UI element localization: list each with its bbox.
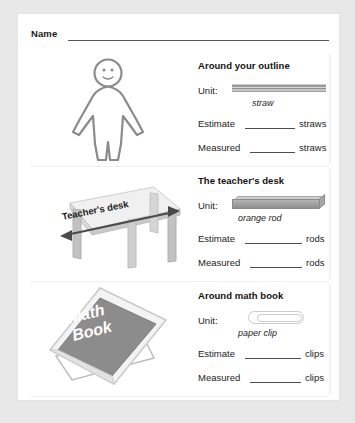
section-title: Around your outline bbox=[198, 60, 290, 71]
measured-blank[interactable] bbox=[250, 267, 302, 268]
name-field-row: Name bbox=[31, 28, 329, 46]
section-panel-book: Around math book Unit: paper clip Estima… bbox=[190, 284, 331, 394]
name-write-line[interactable] bbox=[68, 40, 329, 41]
estimate-row: Estimate clips bbox=[198, 348, 328, 362]
unit-label: Unit: bbox=[198, 315, 218, 326]
orange-rod-icon bbox=[232, 195, 326, 211]
measurement-section-book: Math Book Around math book Unit: paper c… bbox=[18, 282, 341, 396]
measured-row: Measured rods bbox=[198, 257, 328, 271]
body-outline-figure bbox=[26, 52, 189, 166]
estimate-row: Estimate rods bbox=[198, 233, 328, 247]
measured-row: Measured clips bbox=[198, 372, 328, 386]
estimate-unit-word: clips bbox=[305, 348, 324, 359]
unit-caption: paper clip bbox=[238, 328, 277, 338]
book-icon bbox=[42, 284, 172, 392]
body-outline-icon bbox=[60, 56, 156, 162]
estimate-unit-word: rods bbox=[306, 233, 324, 244]
section-panel-desk: The teacher's desk Unit: orange rod Esti… bbox=[190, 169, 331, 279]
measured-row: Measured straws bbox=[198, 142, 328, 156]
measurement-section-outline: Around your outline Unit: straw Estimate… bbox=[18, 52, 341, 166]
estimate-blank[interactable] bbox=[245, 358, 301, 359]
name-label: Name bbox=[31, 28, 57, 39]
unit-caption: orange rod bbox=[238, 213, 282, 223]
estimate-label: Estimate bbox=[198, 118, 235, 129]
teachers-desk-illustration: Teacher's desk bbox=[26, 167, 189, 281]
desk-icon bbox=[32, 173, 182, 273]
straw-icon bbox=[232, 80, 326, 96]
estimate-blank[interactable] bbox=[245, 243, 302, 244]
unit-label: Unit: bbox=[198, 200, 218, 211]
measured-label: Measured bbox=[198, 372, 240, 383]
worksheet-page: Name Around your outline Unit: bbox=[17, 13, 340, 401]
unit-caption: straw bbox=[252, 98, 274, 108]
section-divider bbox=[30, 396, 329, 397]
estimate-label: Estimate bbox=[198, 233, 235, 244]
measured-blank[interactable] bbox=[250, 152, 295, 153]
math-book-illustration: Math Book bbox=[26, 282, 189, 396]
measured-blank[interactable] bbox=[250, 382, 301, 383]
measured-unit-word: rods bbox=[306, 257, 324, 268]
paper-clip-icon bbox=[232, 310, 326, 326]
section-title: The teacher's desk bbox=[198, 175, 284, 186]
measured-label: Measured bbox=[198, 257, 240, 268]
measured-unit-word: straws bbox=[299, 142, 326, 153]
estimate-row: Estimate straws bbox=[198, 118, 328, 132]
estimate-unit-word: straws bbox=[299, 118, 326, 129]
section-title: Around math book bbox=[198, 290, 283, 301]
estimate-blank[interactable] bbox=[245, 128, 295, 129]
estimate-label: Estimate bbox=[198, 348, 235, 359]
section-panel-outline: Around your outline Unit: straw Estimate… bbox=[190, 54, 331, 164]
measurement-section-desk: Teacher's desk The teacher's desk Unit: … bbox=[18, 167, 341, 281]
measured-label: Measured bbox=[198, 142, 240, 153]
unit-label: Unit: bbox=[198, 85, 218, 96]
measured-unit-word: clips bbox=[305, 372, 324, 383]
